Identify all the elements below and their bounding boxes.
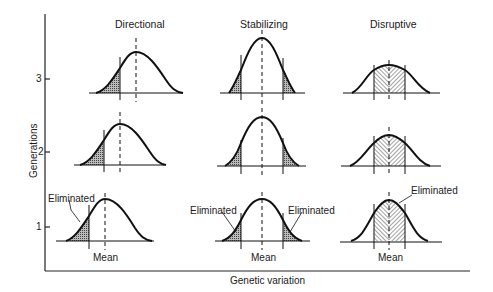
y-tick-3: 3 [36, 74, 42, 84]
disruptive-gen1-curve [340, 192, 442, 250]
axes [45, 14, 470, 271]
stabilizing-gen1-curve [215, 192, 310, 250]
mean-label-directional: Mean [93, 253, 118, 263]
mean-label-stabilizing: Mean [251, 253, 276, 263]
stabilizing-gen3-curve [220, 30, 305, 104]
eliminated-label-stabilizing-right: Eliminated [288, 206, 335, 216]
selection-diagram [0, 0, 493, 292]
column-title-disruptive: Disruptive [370, 19, 417, 30]
column-title-directional: Directional [115, 19, 165, 30]
mean-label-disruptive: Mean [378, 253, 403, 263]
directional-gen2-curve [74, 112, 166, 174]
eliminated-label-stabilizing-left: Eliminated [190, 206, 237, 216]
eliminated-label-disruptive: Eliminated [411, 186, 458, 196]
y-tick-2: 2 [38, 147, 44, 157]
column-title-stabilizing: Stabilizing [240, 19, 288, 30]
stabilizing-gen2-curve [217, 108, 306, 176]
y-tick-1: 1 [36, 222, 42, 232]
directional-gen3-curve [89, 38, 183, 102]
x-axis-label: Genetic variation [230, 276, 305, 286]
disruptive-gen3-curve [343, 60, 440, 101]
disruptive-gen2-curve [341, 127, 441, 175]
eliminated-label-directional: Eliminated [48, 194, 95, 204]
